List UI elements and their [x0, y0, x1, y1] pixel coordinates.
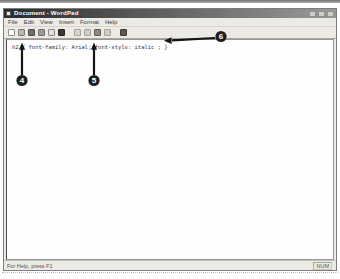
wordpad-app-icon: [6, 11, 11, 16]
cut-scissors-icon[interactable]: [74, 29, 81, 36]
menu-view[interactable]: View: [40, 18, 53, 26]
toolbar: [4, 27, 336, 39]
toolbar-separator: [68, 29, 71, 36]
page-top-rule: [0, 0, 340, 3]
copy-icon[interactable]: [84, 29, 91, 36]
undo-icon[interactable]: [104, 29, 111, 36]
menu-bar: File Edit View Insert Format Help: [4, 18, 336, 27]
toolbar-separator: [114, 29, 117, 36]
menu-format[interactable]: Format: [80, 18, 99, 26]
menu-file[interactable]: File: [8, 18, 18, 26]
page-bottom-rule: [2, 272, 338, 273]
wordpad-window: Document - WordPad File Edit View Insert…: [3, 8, 337, 271]
paste-clipboard-icon[interactable]: [94, 29, 101, 36]
document-editing-area[interactable]: h2 { font-family: Arial; font-style: ita…: [6, 39, 334, 260]
titlebar[interactable]: Document - WordPad: [4, 9, 336, 18]
menu-insert[interactable]: Insert: [59, 18, 74, 26]
menu-help[interactable]: Help: [105, 18, 117, 26]
new-document-icon[interactable]: [8, 29, 15, 36]
close-button[interactable]: [327, 11, 334, 17]
print-icon[interactable]: [38, 29, 45, 36]
num-lock-indicator: NUM: [313, 262, 332, 270]
maximize-button[interactable]: [318, 11, 325, 17]
menu-edit[interactable]: Edit: [24, 18, 34, 26]
status-bar: For Help, press F1 NUM: [4, 260, 336, 270]
status-help-text: For Help, press F1: [7, 263, 313, 269]
find-binoculars-icon[interactable]: [58, 29, 65, 36]
date-time-icon[interactable]: [120, 29, 127, 36]
save-floppy-icon[interactable]: [28, 29, 35, 36]
document-text: h2 { font-family: Arial; font-style: ita…: [12, 44, 168, 51]
window-title: Document - WordPad: [14, 9, 309, 18]
minimize-button[interactable]: [309, 11, 316, 17]
window-controls: [309, 11, 334, 17]
print-preview-icon[interactable]: [48, 29, 55, 36]
open-folder-icon[interactable]: [18, 29, 25, 36]
